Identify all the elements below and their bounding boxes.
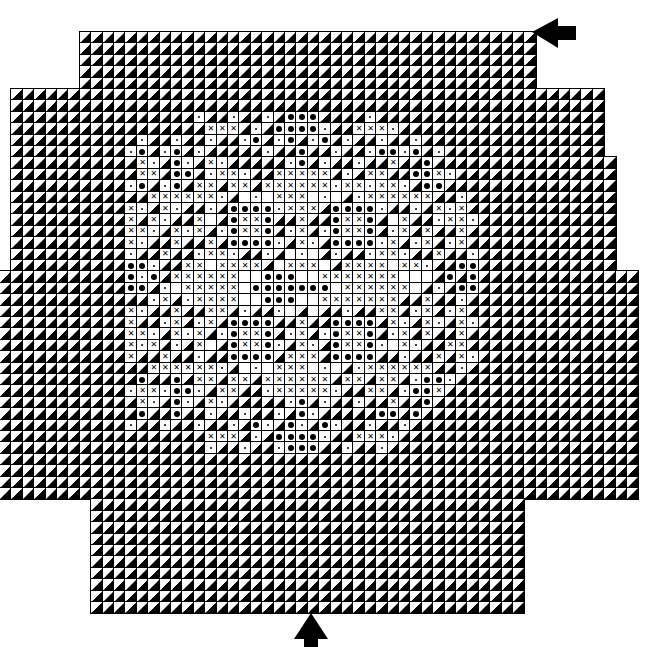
background-triangle-cell xyxy=(160,66,171,77)
background-triangle-cell xyxy=(399,112,410,123)
background-triangle-cell xyxy=(262,123,273,134)
background-triangle-cell xyxy=(80,283,91,294)
background-triangle-cell xyxy=(513,237,524,248)
background-triangle-cell xyxy=(490,454,501,465)
background-triangle-cell xyxy=(68,317,79,328)
background-triangle-cell xyxy=(160,442,171,453)
background-triangle-cell xyxy=(456,385,467,396)
background-triangle-cell xyxy=(456,408,467,419)
background-triangle-cell xyxy=(182,465,193,476)
cross-stitch-cell xyxy=(205,283,216,294)
background-triangle-cell xyxy=(467,237,478,248)
circle-stitch-cell xyxy=(171,374,182,385)
background-triangle-cell xyxy=(114,363,125,374)
background-triangle-cell xyxy=(68,271,79,282)
cross-stitch-cell xyxy=(296,226,307,237)
background-triangle-cell xyxy=(593,237,604,248)
background-triangle-cell xyxy=(160,431,171,442)
background-triangle-cell xyxy=(194,78,205,89)
cross-stitch-cell xyxy=(182,363,193,374)
background-triangle-cell xyxy=(479,420,490,431)
cross-stitch-cell xyxy=(194,192,205,203)
background-triangle-cell xyxy=(103,579,114,590)
background-triangle-cell xyxy=(581,397,592,408)
background-triangle-cell xyxy=(228,591,239,602)
background-triangle-cell xyxy=(445,499,456,510)
background-triangle-cell xyxy=(194,522,205,533)
background-triangle-cell xyxy=(285,55,296,66)
dot-stitch-cell xyxy=(205,408,216,419)
dot-stitch-cell xyxy=(137,135,148,146)
background-triangle-cell xyxy=(502,328,513,339)
background-triangle-cell xyxy=(80,180,91,191)
background-triangle-cell xyxy=(319,477,330,488)
dot-stitch-cell xyxy=(239,408,250,419)
background-triangle-cell xyxy=(114,465,125,476)
background-triangle-cell xyxy=(217,89,228,100)
background-triangle-cell xyxy=(513,43,524,54)
background-triangle-cell xyxy=(536,89,547,100)
cross-stitch-cell xyxy=(319,374,330,385)
circle-stitch-cell xyxy=(422,397,433,408)
background-triangle-cell xyxy=(410,591,421,602)
background-triangle-cell xyxy=(467,306,478,317)
background-triangle-cell xyxy=(171,499,182,510)
background-triangle-cell xyxy=(228,66,239,77)
background-triangle-cell xyxy=(296,556,307,567)
background-triangle-cell xyxy=(581,408,592,419)
dot-stitch-cell xyxy=(285,226,296,237)
circle-stitch-cell xyxy=(125,271,136,282)
background-triangle-cell xyxy=(217,237,228,248)
background-triangle-cell xyxy=(57,374,68,385)
background-triangle-cell xyxy=(524,271,535,282)
background-triangle-cell xyxy=(34,454,45,465)
background-triangle-cell xyxy=(490,363,501,374)
background-triangle-cell xyxy=(319,78,330,89)
background-triangle-cell xyxy=(376,55,387,66)
background-triangle-cell xyxy=(388,534,399,545)
background-triangle-cell xyxy=(285,454,296,465)
dot-stitch-cell xyxy=(182,294,193,305)
circle-stitch-cell xyxy=(319,283,330,294)
background-triangle-cell xyxy=(57,420,68,431)
cross-stitch-cell xyxy=(445,214,456,225)
background-triangle-cell xyxy=(536,351,547,362)
background-triangle-cell xyxy=(502,420,513,431)
background-triangle-cell xyxy=(319,351,330,362)
background-triangle-cell xyxy=(502,442,513,453)
cross-stitch-cell xyxy=(353,283,364,294)
background-triangle-cell xyxy=(479,465,490,476)
dot-stitch-cell xyxy=(137,271,148,282)
background-triangle-cell xyxy=(376,420,387,431)
dot-stitch-cell xyxy=(160,385,171,396)
background-triangle-cell xyxy=(262,100,273,111)
background-triangle-cell xyxy=(467,602,478,613)
background-triangle-cell xyxy=(80,32,91,43)
background-triangle-cell xyxy=(114,340,125,351)
background-triangle-cell xyxy=(160,226,171,237)
background-triangle-cell xyxy=(148,135,159,146)
background-triangle-cell xyxy=(502,55,513,66)
background-triangle-cell xyxy=(319,499,330,510)
background-triangle-cell xyxy=(0,454,11,465)
background-triangle-cell xyxy=(536,385,547,396)
background-triangle-cell xyxy=(103,465,114,476)
background-triangle-cell xyxy=(11,203,22,214)
background-triangle-cell xyxy=(399,477,410,488)
background-triangle-cell xyxy=(502,180,513,191)
background-triangle-cell xyxy=(194,465,205,476)
background-triangle-cell xyxy=(604,237,615,248)
background-triangle-cell xyxy=(217,591,228,602)
background-triangle-cell xyxy=(308,55,319,66)
background-triangle-cell xyxy=(251,112,262,123)
background-triangle-cell xyxy=(456,579,467,590)
dot-stitch-cell xyxy=(160,283,171,294)
background-triangle-cell xyxy=(353,135,364,146)
background-triangle-cell xyxy=(296,499,307,510)
background-triangle-cell xyxy=(547,157,558,168)
background-triangle-cell xyxy=(182,340,193,351)
background-triangle-cell xyxy=(171,100,182,111)
background-triangle-cell xyxy=(456,135,467,146)
dot-stitch-cell xyxy=(388,123,399,134)
cross-stitch-cell xyxy=(125,214,136,225)
